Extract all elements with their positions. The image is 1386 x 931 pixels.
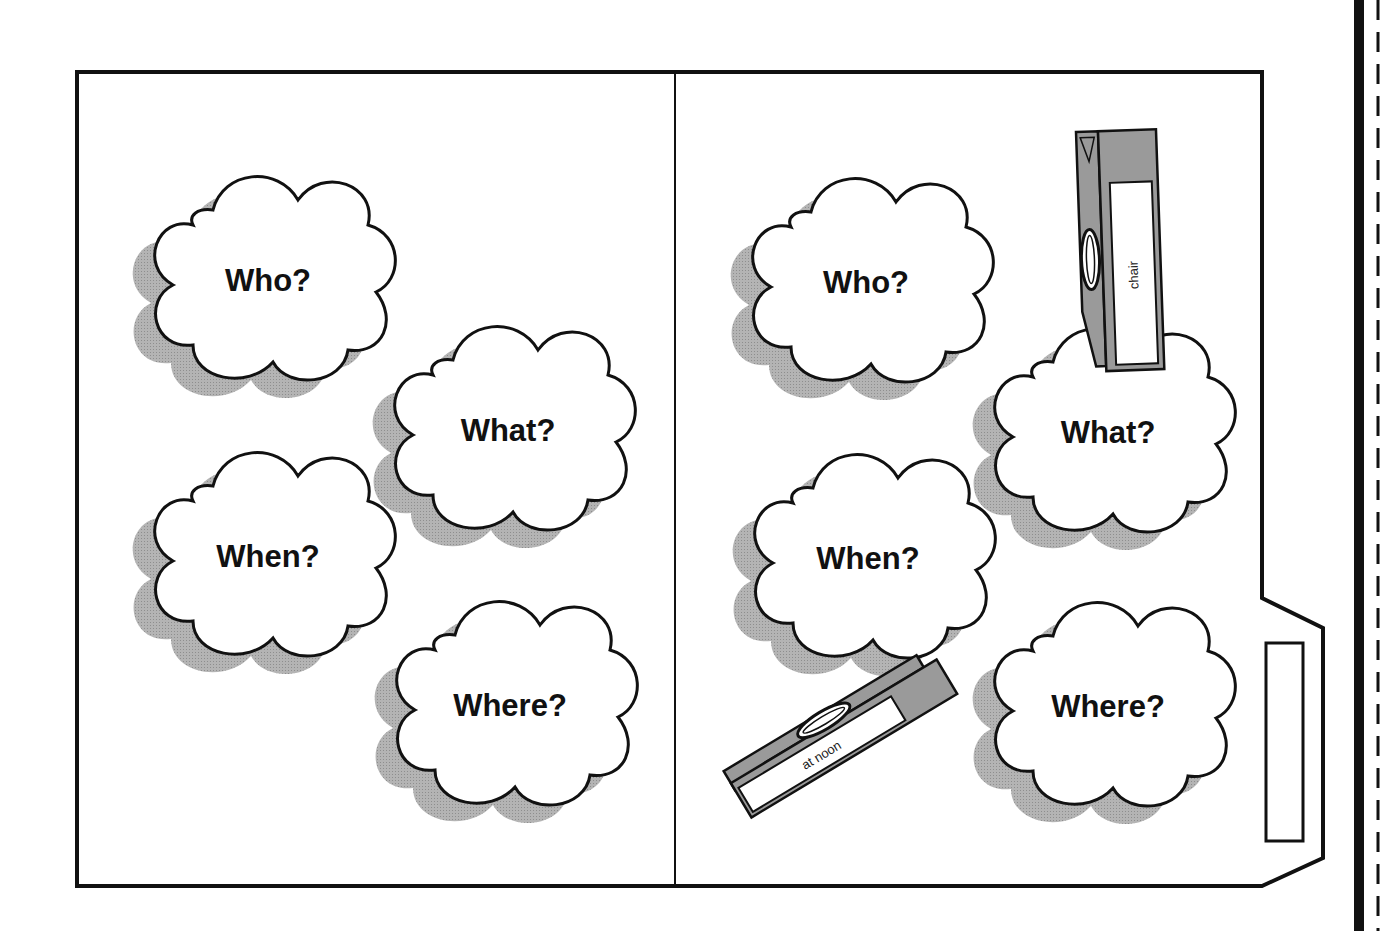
cloud-label: When? <box>816 541 919 576</box>
cloud-label: Who? <box>225 263 311 298</box>
cloud-label: Where? <box>453 688 567 723</box>
cloud-label: What? <box>461 413 556 448</box>
folder-tab-label-box <box>1266 643 1303 841</box>
cloud-label: What? <box>1061 415 1156 450</box>
cloud-label: When? <box>216 539 319 574</box>
clothespin-label: chair <box>1126 260 1142 289</box>
cloud-label: Who? <box>823 265 909 300</box>
clothespin-chair[interactable]: chair <box>1076 129 1164 372</box>
cloud-label: Where? <box>1051 689 1165 724</box>
cut-line <box>1354 0 1378 931</box>
